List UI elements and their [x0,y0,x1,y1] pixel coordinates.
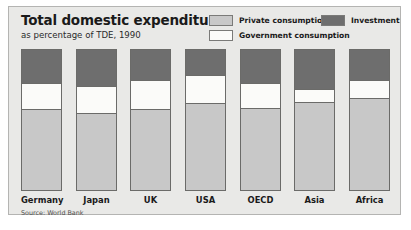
legend-label-private-consumption: Private consumption [239,16,328,25]
x-axis-label: Germany [21,195,62,205]
bar-segment-investment [350,50,389,80]
bar-column [185,49,226,191]
chart-header: Total domestic expenditure as percentage… [9,7,400,47]
x-axis-label: OECD [240,195,281,205]
x-axis-label: USA [185,195,226,205]
bar-column [240,49,281,191]
legend-item-government-consumption: Government consumption [209,30,350,41]
bar-segment-government [77,86,116,114]
chart-subtitle: as percentage of TDE, 1990 [21,30,211,41]
bar-segment-private [241,109,280,190]
stacked-bar [240,49,281,191]
bar-segment-government [295,89,334,103]
bar-segment-private [131,110,170,190]
bar-column [76,49,117,191]
title-block: Total domestic expenditure as percentage… [21,13,211,41]
x-axis-label: Japan [76,195,117,205]
bar-column [130,49,171,191]
bar-segment-government [131,80,170,110]
bar-segment-private [77,114,116,190]
legend-swatch-government-consumption [209,30,233,41]
chart-panel: Total domestic expenditure as percentage… [8,6,401,215]
bar-segment-investment [295,50,334,89]
legend-item-investment: Investment [321,15,400,26]
bar-segment-investment [241,50,280,83]
bar-column [21,49,62,191]
bar-segment-private [295,103,334,190]
stacked-bar [21,49,62,191]
bar-segment-private [350,99,389,190]
legend-label-government-consumption: Government consumption [239,31,350,40]
bar-segment-private [186,104,225,190]
chart-title: Total domestic expenditure [21,13,211,28]
bar-column [349,49,390,191]
bar-segment-private [22,110,61,190]
stacked-bar [294,49,335,191]
legend-swatch-private-consumption [209,15,233,26]
chart-legend: Private consumption Investment Governmen… [209,14,397,46]
bar-segment-investment [131,50,170,80]
bar-segment-investment [22,50,61,83]
stacked-bar [185,49,226,191]
bar-segment-government [350,80,389,99]
stacked-bar [130,49,171,191]
legend-swatch-investment [321,15,345,26]
legend-label-investment: Investment [351,16,400,25]
x-axis-labels: GermanyJapanUKUSAOECDAsiaAfrica [21,195,390,209]
source-note: Source: World Bank [21,209,84,217]
bar-segment-government [22,83,61,110]
x-axis-label: Asia [294,195,335,205]
bar-segment-investment [186,50,225,75]
bar-segment-government [186,75,225,105]
x-axis-label: UK [130,195,171,205]
stacked-bar [349,49,390,191]
bar-column [294,49,335,191]
plot-area [21,49,390,192]
legend-item-private-consumption: Private consumption [209,15,328,26]
x-axis-label: Africa [349,195,390,205]
bar-segment-investment [77,50,116,86]
bar-segment-government [241,83,280,108]
stacked-bar [76,49,117,191]
